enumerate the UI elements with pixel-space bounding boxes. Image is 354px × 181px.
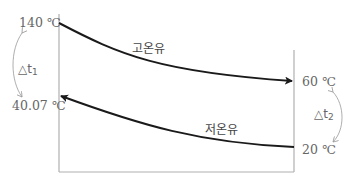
right-bottom-temp: 20 ℃ (302, 142, 336, 157)
hot-oil-label: 고온유 (132, 42, 165, 56)
cold-oil-curve (61, 96, 294, 147)
left-bottom-temp: 40.07 ℃ (12, 98, 66, 113)
cold-oil-label: 저온유 (205, 123, 238, 137)
hot-oil-curve (59, 23, 292, 81)
right-top-temp: 60 ℃ (302, 74, 336, 89)
delta-t2-label: △t2 (314, 107, 334, 122)
heat-exchanger-diagram: 고온유 저온유 140 ℃ 40.07 ℃ △t1 60 ℃ 20 ℃ △t2 (0, 0, 354, 181)
delta-t2-arrow (333, 92, 342, 142)
delta-t1-label: △t1 (18, 62, 38, 77)
left-top-temp: 140 ℃ (19, 15, 61, 30)
